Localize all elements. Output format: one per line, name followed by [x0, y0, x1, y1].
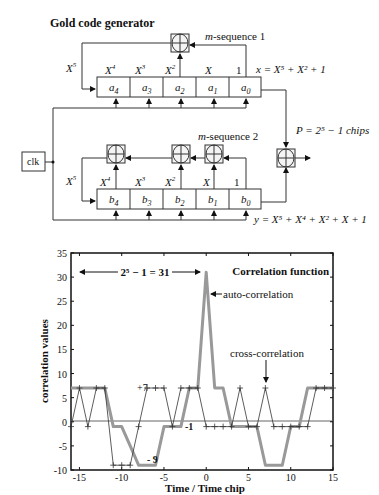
xor-gate-b3 [205, 145, 223, 163]
polynomial-y: y = X⁵ + X⁴ + X² + X + 1 [253, 213, 367, 225]
plus7-annotation: +7 [137, 382, 148, 393]
register-cell-b3: b3 [142, 193, 152, 208]
tap-label-x2-b: X2 [164, 175, 176, 188]
m-sequence-1-label: m-sequence 1 [205, 30, 265, 42]
tap-label-x5-b: X5 [65, 174, 77, 187]
tap-label-x2-a: X2 [164, 63, 176, 76]
x-tick-label: -15 [73, 472, 86, 483]
y-tick-label: 30 [57, 272, 67, 283]
tap-label-x3-a: X3 [134, 63, 146, 76]
y-axis: -10-505101520253035 [54, 248, 333, 476]
tap-label-x-a: X [204, 64, 213, 76]
register-cell-a1: a1 [208, 81, 218, 96]
register-cell-b4: b4 [109, 193, 119, 208]
x-tick-label: 5 [246, 472, 251, 483]
diagram-title: Gold code generator [50, 16, 155, 30]
y-tick-label: 25 [57, 296, 67, 307]
period-label: P = 2⁵ − 1 chips [295, 124, 369, 136]
polynomial-x: x = X⁵ + X² + 1 [255, 63, 326, 75]
y-tick-label: 15 [57, 344, 67, 355]
tap-label-x3-b: X3 [134, 175, 146, 188]
xor-gate-a [171, 34, 189, 52]
y-tick-label: -5 [59, 441, 67, 452]
correlation-chart: -10-505101520253035 -15-10-5051015 corre… [38, 248, 338, 494]
register-cell-b0: b0 [241, 193, 251, 208]
m-sequence-2-label: m-sequence 2 [198, 130, 258, 142]
y-tick-label: -10 [54, 465, 67, 476]
register-cell-a0: a0 [241, 81, 251, 96]
tap-label-x4-a: X4 [104, 63, 116, 76]
tap-label-x5-a: X5 [65, 61, 77, 74]
x-axis-label: Time / Time chip [165, 482, 245, 494]
xor-gate-b1 [107, 145, 125, 163]
clk-label: clk [27, 156, 39, 167]
y-tick-label: 10 [57, 369, 67, 380]
register-cell-a4: a4 [109, 81, 119, 96]
y-tick-label: 20 [57, 320, 67, 331]
tap-label-x4-b: X4 [99, 175, 111, 188]
register-cell-b2: b2 [175, 193, 185, 208]
y-tick-label: 35 [57, 248, 67, 259]
xor-gate-b2 [172, 145, 190, 163]
chart-title: Correlation function [232, 265, 329, 277]
y-tick-label: 5 [62, 393, 67, 404]
tap-label-1-b: 1 [234, 176, 240, 188]
y-tick-label: 0 [62, 417, 67, 428]
tap-label-x-b: X [202, 176, 211, 188]
minus9-annotation: - 9 [147, 454, 158, 465]
minus1-annotation: -1 [185, 421, 193, 432]
x-tick-label: -10 [115, 472, 128, 483]
clock-block: clk [22, 152, 55, 171]
tap-label-1-a: 1 [236, 64, 242, 76]
register-cell-b1: b1 [208, 193, 218, 208]
register-cell-a3: a3 [142, 81, 152, 96]
register-cell-a2: a2 [175, 81, 185, 96]
period-annotation: 2⁵ − 1 = 31 [121, 266, 170, 278]
x-tick-label: 10 [286, 472, 296, 483]
gold-code-figure: Gold code generator a4 a3 a2 a1 a0 X5 X4… [0, 0, 379, 495]
y-axis-label: correlation values [38, 318, 50, 403]
xor-gate-output [277, 149, 310, 167]
x-tick-label: 15 [328, 472, 338, 483]
auto-correlation-annotation: auto-correlation [223, 288, 294, 300]
cross-correlation-annotation: cross-correlation [230, 347, 304, 359]
gold-code-generator-diagram: Gold code generator a4 a3 a2 a1 a0 X5 X4… [22, 16, 369, 225]
